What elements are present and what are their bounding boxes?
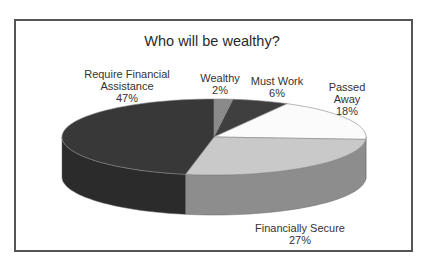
label-passed-away-line2: Away	[322, 93, 372, 105]
label-require-assistance-line2: Assistance	[62, 80, 192, 92]
label-wealthy: Wealthy 2%	[195, 72, 245, 96]
label-passed-away: Passed Away 18%	[322, 81, 372, 117]
label-must-work-name: Must Work	[246, 75, 308, 87]
label-passed-away-line1: Passed	[322, 81, 372, 93]
label-must-work-pct: 6%	[246, 87, 308, 99]
label-wealthy-pct: 2%	[195, 84, 245, 96]
label-financially-secure-pct: 27%	[240, 234, 360, 246]
label-passed-away-pct: 18%	[322, 105, 372, 117]
label-financially-secure: Financially Secure 27%	[240, 222, 360, 246]
label-require-assistance-line1: Require Financial	[62, 68, 192, 80]
label-financially-secure-name: Financially Secure	[240, 222, 360, 234]
label-require-assistance: Require Financial Assistance 47%	[62, 68, 192, 104]
label-require-assistance-pct: 47%	[62, 92, 192, 104]
label-must-work: Must Work 6%	[246, 75, 308, 99]
pie-chart-3d	[0, 0, 424, 263]
label-wealthy-name: Wealthy	[195, 72, 245, 84]
